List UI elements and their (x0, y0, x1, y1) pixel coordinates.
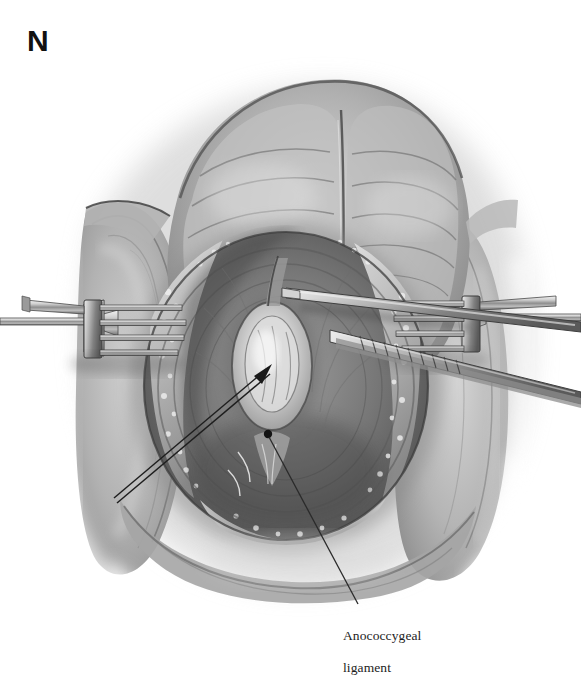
leader-dot-marker (264, 430, 272, 438)
anococcygeal-ligament-label: Anococcygeal ligament (343, 612, 421, 678)
anococcygeal-ligament-label-line2: ligament (343, 660, 421, 676)
illustration-canvas (0, 0, 581, 678)
figure-root: N Anococcygeal ligament (0, 0, 581, 678)
anococcygeal-ligament-label-line1: Anococcygeal (343, 628, 421, 644)
panel-letter: N (27, 26, 49, 56)
